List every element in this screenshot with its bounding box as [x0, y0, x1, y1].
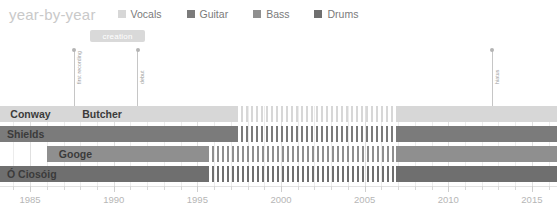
legend-swatch-icon [118, 10, 126, 18]
axis-tick [281, 186, 282, 192]
axis-tick [415, 186, 416, 190]
axis-tick-label: 1990 [103, 194, 124, 205]
axis-tick [97, 186, 98, 190]
timeline-segment [207, 166, 396, 182]
timeline-row[interactable]: Ó Ciosóig [0, 166, 557, 182]
legend: VocalsGuitarBassDrums [118, 8, 384, 20]
timeline-segment [236, 126, 397, 142]
axis-tick [381, 186, 382, 190]
axis-line [0, 186, 557, 187]
axis-tick [482, 186, 483, 190]
axis-tick [80, 186, 81, 190]
axis-tick [448, 186, 449, 192]
timeline-segment [396, 166, 557, 182]
annotation-layer: creationfirst recordingdebuthiatus [0, 28, 557, 106]
legend-swatch-icon [314, 10, 322, 18]
axis-tick [197, 186, 198, 192]
axis-tick [515, 186, 516, 190]
axis-tick [264, 186, 265, 190]
annotation-label: hiatus [494, 70, 500, 84]
legend-label: Vocals [131, 8, 162, 20]
legend-item-vocals[interactable]: Vocals [118, 8, 162, 20]
axis-tick-label: 1995 [187, 194, 208, 205]
axis-tick [130, 186, 131, 190]
axis-tick [214, 186, 215, 190]
timeline-row[interactable]: Googe [0, 146, 557, 162]
x-axis: 1985199019952000200520102015 [0, 186, 557, 210]
legend-label: Bass [266, 8, 289, 20]
axis-tick [164, 186, 165, 190]
chart-header: year-by-year VocalsGuitarBassDrums [0, 0, 557, 28]
axis-tick [549, 186, 550, 190]
legend-item-drums[interactable]: Drums [314, 8, 358, 20]
legend-label: Guitar [200, 8, 229, 20]
axis-tick-label: 1985 [20, 194, 41, 205]
axis-tick [64, 186, 65, 190]
axis-tick [365, 186, 366, 192]
axis-tick [398, 186, 399, 190]
legend-swatch-icon [253, 10, 261, 18]
axis-tick [465, 186, 466, 190]
annotation-line [137, 50, 138, 106]
timeline-segment [396, 106, 557, 122]
timeline-row[interactable]: ConwayButcher [0, 106, 557, 122]
annotation-dot-icon [136, 48, 140, 52]
axis-tick [47, 186, 48, 190]
axis-tick [331, 186, 332, 190]
annotation-label: debut [139, 71, 145, 84]
axis-tick-label: 2010 [438, 194, 459, 205]
axis-tick-label: 2000 [270, 194, 291, 205]
axis-tick [13, 186, 14, 190]
annotation-marker: first recording [74, 50, 75, 106]
axis-tick [432, 186, 433, 190]
timeline-plot: ConwayButcherShieldsGoogeÓ Ciosóig [0, 106, 557, 186]
legend-item-guitar[interactable]: Guitar [187, 8, 229, 20]
axis-tick [298, 186, 299, 190]
timeline-segment [396, 126, 557, 142]
row-label: Shields [0, 126, 44, 142]
annotation-marker: debut [137, 50, 138, 106]
annotation-dot-icon [490, 48, 494, 52]
annotation-line [74, 50, 75, 106]
timeline-segment [236, 106, 397, 122]
axis-tick [114, 186, 115, 192]
axis-tick [30, 186, 31, 192]
legend-label: Drums [327, 8, 358, 20]
timeline-segment [207, 146, 396, 162]
row-label: Googe [52, 146, 92, 162]
legend-item-bass[interactable]: Bass [253, 8, 289, 20]
legend-swatch-icon [187, 10, 195, 18]
axis-tick [147, 186, 148, 190]
axis-tick [498, 186, 499, 190]
axis-tick-label: 2015 [521, 194, 542, 205]
axis-tick-label: 2005 [354, 194, 375, 205]
page-title: year-by-year [9, 6, 96, 23]
axis-tick [532, 186, 533, 192]
timeline-segment [396, 146, 557, 162]
axis-tick [181, 186, 182, 190]
axis-tick [248, 186, 249, 190]
axis-tick [348, 186, 349, 190]
timeline-row[interactable]: Shields [0, 126, 557, 142]
row-label: Ó Ciosóig [0, 166, 57, 182]
row-label: Butcher [75, 106, 122, 122]
creation-badge: creation [90, 30, 145, 42]
annotation-label: first recording [76, 51, 82, 84]
axis-tick [231, 186, 232, 190]
annotation-line [492, 50, 493, 106]
annotation-marker: hiatus [492, 50, 493, 106]
axis-tick [314, 186, 315, 190]
row-label: Conway [3, 106, 50, 122]
